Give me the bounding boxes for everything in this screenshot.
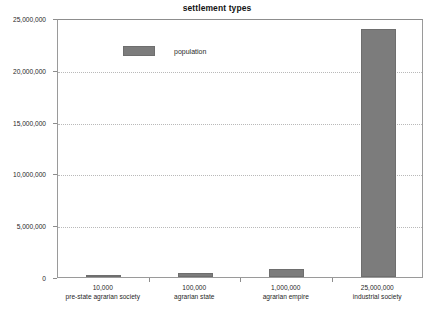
bar[interactable] [86,275,121,277]
x-category-value: 100,000 [151,283,238,292]
x-category-label: 100,000agrarian state [151,283,238,301]
bar-chart: settlement types 05,000,00010,000,00015,… [0,0,434,321]
x-category-name: agrarian empire [242,292,329,301]
x-tick-mark [149,278,150,282]
y-axis: 05,000,00010,000,00015,000,00020,000,000… [0,19,52,278]
bar[interactable] [269,269,304,277]
y-tick-label: 20,000,000 [13,67,46,74]
x-category-label: 25,000,000industrial society [334,283,421,301]
y-tick-label: 5,000,000 [17,223,46,230]
x-category-label: 10,000pre-state agrarian society [59,283,146,301]
x-tick-mark [332,278,333,282]
y-tick-label: 10,000,000 [13,171,46,178]
x-category-name: industrial society [334,292,421,301]
x-category-value: 1,000,000 [242,283,329,292]
chart-legend: population [123,46,206,56]
y-tick-label: 15,000,000 [13,119,46,126]
x-tick-mark [240,278,241,282]
x-category-name: pre-state agrarian society [59,292,146,301]
x-category-value: 25,000,000 [334,283,421,292]
legend-label-population: population [174,48,206,55]
bar[interactable] [178,273,213,277]
plot-area: population [57,19,423,278]
x-axis-labels: 10,000pre-state agrarian society100,000a… [57,283,423,321]
bars-layer [58,20,422,277]
x-category-value: 10,000 [59,283,146,292]
x-category-name: agrarian state [151,292,238,301]
chart-title: settlement types [0,3,434,13]
x-category-label: 1,000,000agrarian empire [242,283,329,301]
bar[interactable] [361,29,396,277]
y-tick-label: 0 [42,275,46,282]
y-tick-label: 25,000,000 [13,16,46,23]
legend-swatch-population [123,46,155,56]
